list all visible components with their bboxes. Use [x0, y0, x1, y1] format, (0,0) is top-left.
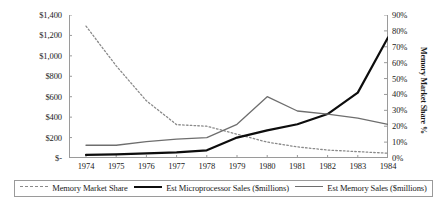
series-line	[86, 26, 388, 153]
y-axis-right-tick-label: 30%	[392, 106, 407, 115]
y-axis-right-tick-label: 60%	[392, 58, 407, 67]
y-axis-right-title: Memory Market Share %	[416, 22, 430, 158]
legend-swatch-icon	[134, 186, 162, 192]
legend-item[interactable]: Est Microprocessor Sales ($millions)	[134, 184, 289, 193]
y-axis-right-tick-label: 20%	[392, 122, 407, 131]
y-axis-left-tick-label: $800	[45, 72, 62, 81]
x-axis-tick-label: 1982	[319, 162, 336, 171]
chart-container: $-$200$400$600$800$1,000$1,200$1,400 0%1…	[0, 0, 447, 210]
y-axis-left-tick-label: $600	[45, 92, 62, 101]
y-axis-left-labels: $-$200$400$600$800$1,000$1,200$1,400	[0, 0, 62, 172]
x-axis-tick-label: 1980	[259, 162, 276, 171]
y-axis-left-tick-label: $200	[45, 133, 62, 142]
series-line	[86, 37, 388, 154]
legend-label: Est Microprocessor Sales ($millions)	[166, 184, 289, 193]
x-axis-tick-label: 1978	[198, 162, 215, 171]
y-axis-right-tick-label: 80%	[392, 27, 407, 36]
x-axis-tick-label: 1979	[229, 162, 246, 171]
x-axis-labels: 1974197519761977197819791980198119821983…	[0, 162, 447, 176]
x-axis-tick-label: 1984	[380, 162, 397, 171]
y-axis-right-tick-label: 50%	[392, 74, 407, 83]
x-axis-tick-label: 1977	[168, 162, 185, 171]
plot-area	[69, 15, 388, 158]
y-axis-left-tick-label: $-	[55, 154, 62, 163]
y-axis-left-tick-label: $1,400	[39, 11, 62, 20]
y-axis-left-tick-label: $1,000	[39, 52, 62, 61]
legend-label: Est Memory Sales ($millions)	[327, 184, 426, 193]
y-axis-left-tick-label: $1,200	[39, 31, 62, 40]
legend-swatch-icon	[295, 186, 323, 191]
legend-item[interactable]: Memory Market Share	[20, 184, 128, 193]
x-axis-tick-label: 1975	[108, 162, 125, 171]
legend-label: Memory Market Share	[52, 184, 128, 193]
x-axis-tick-label: 1981	[289, 162, 306, 171]
y-axis-right-tick-label: 70%	[392, 43, 407, 52]
legend-item[interactable]: Est Memory Sales ($millions)	[295, 184, 426, 193]
legend-swatch-icon	[20, 186, 48, 191]
plot-svg	[69, 15, 388, 158]
x-axis-tick-label: 1974	[78, 162, 95, 171]
x-axis-tick-label: 1976	[138, 162, 155, 171]
y-axis-right-tick-label: 40%	[392, 90, 407, 99]
chart-legend: Memory Market ShareEst Microprocessor Sa…	[14, 180, 433, 197]
y-axis-left-tick-label: $400	[45, 113, 62, 122]
y-axis-right-tick-label: 10%	[392, 138, 407, 147]
y-axis-right-tick-label: 90%	[392, 11, 407, 20]
x-axis-tick-label: 1983	[349, 162, 366, 171]
